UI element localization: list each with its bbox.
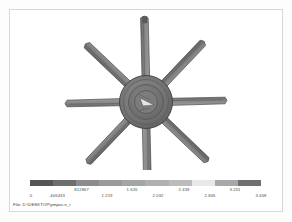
blade bbox=[141, 16, 150, 84]
hub-assembly bbox=[120, 76, 173, 129]
colorbar-band bbox=[192, 180, 215, 186]
blade bbox=[164, 97, 227, 105]
colorbar-band bbox=[169, 180, 192, 186]
colorbar-band bbox=[122, 180, 145, 186]
colorbar-tick-row-lower: 0 .406433 1.219 2.032 2.845 3.658 bbox=[10, 193, 282, 201]
plot-frame: .812867 1.626 2.439 3.251 0 .406433 1.21… bbox=[9, 9, 283, 212]
fea-postprocessor-window: .812867 1.626 2.439 3.251 0 .406433 1.21… bbox=[0, 0, 292, 222]
colorbar-tick-label: 0 bbox=[30, 193, 32, 199]
contour-colorbar[interactable] bbox=[30, 180, 261, 186]
blade-surface bbox=[164, 97, 227, 105]
colorbar-tick-label: .406433 bbox=[49, 193, 65, 199]
colorbar-band bbox=[76, 180, 99, 186]
colorbar-band bbox=[99, 180, 122, 186]
legend-area: .812867 1.626 2.439 3.251 0 .406433 1.21… bbox=[10, 170, 282, 212]
colorbar-band bbox=[145, 180, 168, 186]
colorbar-tick-label: 2.845 bbox=[205, 193, 216, 199]
blade-surface bbox=[65, 98, 128, 106]
blade bbox=[65, 98, 128, 106]
blade-surface bbox=[141, 16, 150, 84]
colorbar-band bbox=[30, 180, 53, 186]
file-path-label: File: D:\DESKTOP\ympas.e_t bbox=[13, 202, 71, 207]
colorbar-tick-label: 1.219 bbox=[102, 193, 113, 199]
impeller-model-graphic bbox=[10, 10, 282, 170]
colorbar-band bbox=[53, 180, 76, 186]
colorbar-band bbox=[238, 180, 261, 186]
colorbar-band bbox=[215, 180, 238, 186]
colorbar-tick-label: 3.658 bbox=[256, 193, 267, 199]
colorbar-tick-label: 2.032 bbox=[153, 193, 164, 199]
model-viewport[interactable] bbox=[10, 10, 282, 170]
